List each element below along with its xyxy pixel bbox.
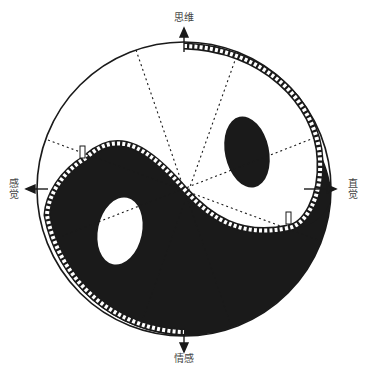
arrow-down-icon — [180, 343, 188, 352]
label-left-sensation: 感觉 — [8, 178, 19, 200]
arrow-up-icon — [180, 28, 188, 37]
label-top-thinking: 思维 — [170, 12, 198, 23]
label-bottom-feeling: 情感 — [170, 353, 198, 364]
label-right-intuition: 直觉 — [347, 178, 358, 200]
diagram-svg — [0, 0, 370, 370]
arrow-left-icon — [26, 185, 35, 193]
yin-yang-diagram: 思维 情感 感觉 直觉 — [0, 0, 370, 370]
